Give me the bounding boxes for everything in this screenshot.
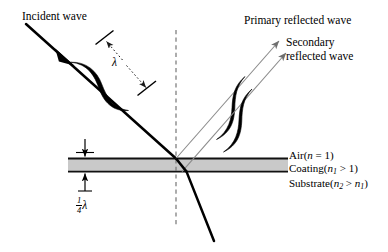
wavelength-label: λ: [112, 56, 117, 70]
media-legend: Air(n = 1) Coating(n1 > 1) Substrate(n2 …: [289, 149, 368, 191]
transmitted-ray-in-substrate: [187, 172, 215, 241]
media-label-air: Air(n = 1): [289, 149, 368, 162]
media-label-substrate: Substrate(n2 > n1): [289, 177, 368, 192]
air-paren-close: ): [330, 149, 334, 161]
secondary-label-line-1: Secondary: [286, 36, 353, 50]
media-name-air: Air: [289, 149, 304, 161]
wavelength-tick-lower: [138, 81, 157, 96]
wavelength-tick-upper: [96, 31, 114, 45]
coating-relation: > 1: [337, 162, 354, 174]
secondary-reflected-wave-label: Secondary reflected wave: [286, 36, 353, 63]
primary-reflected-ray: [176, 41, 279, 159]
air-relation: = 1: [313, 149, 330, 161]
secondary-label-line-2: reflected wave: [286, 50, 353, 64]
optics-figure: Incident wave Primary reflected wave Sec…: [0, 0, 388, 252]
primary-reflected-wave-label: Primary reflected wave: [244, 14, 351, 28]
substrate-paren-close: ): [364, 177, 368, 189]
incident-wave-squiggle: [71, 62, 129, 110]
media-name-coating: Coating: [289, 162, 324, 174]
coating-thickness-label: 14λ: [76, 196, 87, 215]
secondary-reflected-wave-squiggle: [224, 89, 253, 152]
incident-ray-arrowhead: [55, 48, 74, 65]
incident-wave-label: Incident wave: [22, 10, 87, 24]
substrate-relation: >: [343, 177, 355, 189]
secondary-reflected-ray: [182, 53, 286, 172]
media-name-substrate: Substrate: [289, 177, 330, 189]
quarter-lambda-symbol: λ: [82, 199, 87, 211]
media-label-coating: Coating(n1 > 1): [289, 162, 368, 177]
coating-paren-close: ): [354, 162, 358, 174]
wavelength-dimension-line-lower: [127, 66, 147, 88]
